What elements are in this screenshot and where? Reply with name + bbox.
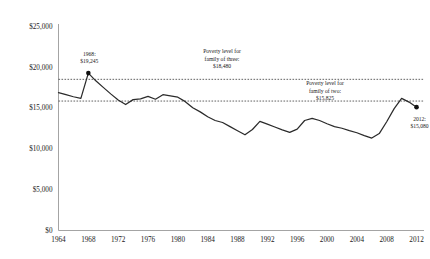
x-axis-tick-label: 2008 [380,236,395,244]
y-axis-tick-label: $0 [45,227,53,235]
x-axis-tick-label: 2012 [409,236,424,244]
x-axis-tick-label: 1964 [51,236,66,244]
reference-label-poverty-level-family-of-two: $15,825 [316,95,334,101]
y-axis-tick-label: $10,000 [29,145,53,153]
x-axis-tick-label: 1988 [230,236,245,244]
reference-label-poverty-level-family-of-two: family of two: [309,88,341,94]
annotations: 1968:$19,2452012:$15,080Poverty level fo… [80,48,429,129]
reference-label-poverty-level-family-of-three: Poverty level for [203,48,241,54]
x-axis-tick-label: 1976 [141,236,156,244]
annotation-label-peak-1968: 1968: [83,51,96,57]
x-axis-tick-label: 2000 [320,236,335,244]
annotation-label-peak-1968: $19,245 [80,58,98,64]
data-series [59,73,417,138]
x-axis-tick-label: 2004 [350,236,365,244]
chart-container: $0$5,000$10,000$15,000$20,000$25,000 196… [0,0,430,259]
y-axis: $0$5,000$10,000$15,000$20,000$25,000 [29,23,58,236]
y-axis-tick-label: $5,000 [33,186,53,194]
x-axis-tick-label: 1984 [200,236,215,244]
reference-lines [59,79,425,101]
x-axis: 1964196819721976198019841988199219962000… [51,231,424,245]
series-line-minimum-wage-value [59,73,417,138]
x-axis-tick-label: 1992 [260,236,275,244]
data-point-peak-1968 [86,71,91,76]
reference-label-poverty-level-family-of-three: $18,480 [213,63,231,69]
annotation-label-endpoint-2012: 2012: [413,116,426,122]
reference-label-poverty-level-family-of-three: family of three: [205,56,240,62]
y-axis-tick-label: $20,000 [29,64,53,72]
reference-label-poverty-level-family-of-two: Poverty level for [306,80,344,86]
y-axis-tick-label: $25,000 [29,23,53,31]
y-axis-tick-label: $15,000 [29,104,53,112]
x-axis-tick-label: 1972 [111,236,126,244]
line-chart: $0$5,000$10,000$15,000$20,000$25,000 196… [0,0,430,259]
annotation-label-endpoint-2012: $15,080 [410,123,428,129]
data-point-endpoint-2012 [414,105,419,110]
x-axis-tick-label: 1980 [171,236,186,244]
x-axis-tick-label: 1996 [290,236,305,244]
x-axis-tick-label: 1968 [81,236,96,244]
